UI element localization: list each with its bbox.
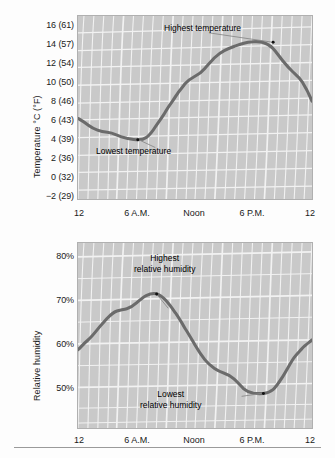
- x-tick-label: 6 A.M.: [124, 435, 150, 445]
- y-tick-label: 70%: [56, 295, 74, 305]
- y-tick-label: −2 (29): [46, 191, 74, 201]
- y-tick-label: 50%: [56, 383, 74, 393]
- x-tick-label: 6 P.M.: [240, 208, 265, 218]
- temperature-plot-area: [77, 15, 313, 200]
- lowest-temperature-marker: [136, 138, 139, 141]
- y-tick-label: 8 (46): [51, 96, 74, 106]
- highest-temperature-marker: [272, 41, 275, 44]
- temperature-curve: [78, 42, 312, 140]
- weather-chart-figure: Temperature °C (°F) −2 (29) 0 (32) 2 (36…: [0, 0, 335, 458]
- temperature-chart-panel: Temperature °C (°F) −2 (29) 0 (32) 2 (36…: [0, 0, 335, 229]
- y-tick-label: 2 (36): [51, 153, 74, 163]
- humidity-chart-panel: Relative humidity 50% 60% 70% 80%: [0, 229, 335, 458]
- temperature-y-tick-labels: −2 (29) 0 (32) 2 (36) 4 (39) 6 (43) 8 (4…: [36, 0, 74, 229]
- x-tick-label: 6 P.M.: [240, 435, 265, 445]
- figure-bottom-rule: [14, 447, 321, 448]
- y-tick-label: 14 (57): [46, 39, 74, 49]
- lowest-relative-humidity-annotation: Lowestrelative humidity: [140, 389, 201, 410]
- x-tick-label: Noon: [183, 435, 205, 445]
- y-tick-label: 16 (61): [46, 20, 74, 30]
- y-tick-label: 0 (32): [51, 172, 74, 182]
- temperature-gridlines: [78, 16, 312, 199]
- highest-temperature-leader-line: [209, 33, 272, 42]
- x-tick-label: 12: [305, 208, 315, 218]
- highest-temperature-annotation: Highest temperature: [164, 23, 241, 34]
- y-tick-label: 12 (54): [46, 58, 74, 68]
- highest-relative-humidity-marker: [155, 292, 158, 295]
- highest-relative-humidity-annotation: Highestrelative humidity: [134, 253, 195, 274]
- x-tick-label: 12: [74, 208, 84, 218]
- x-tick-label: 12: [74, 435, 84, 445]
- lowest-temperature-annotation: Lowest temperature: [96, 146, 171, 157]
- y-tick-label: 10 (50): [46, 77, 74, 87]
- y-tick-label: 60%: [56, 339, 74, 349]
- y-tick-label: 80%: [56, 251, 74, 261]
- x-tick-label: 6 A.M.: [124, 208, 150, 218]
- y-tick-label: 6 (43): [51, 115, 74, 125]
- y-tick-label: 4 (39): [51, 134, 74, 144]
- lowest-relative-humidity-marker: [262, 392, 265, 395]
- temperature-plot-svg: [78, 16, 312, 199]
- humidity-y-tick-labels: 50% 60% 70% 80%: [36, 229, 74, 458]
- x-tick-label: Noon: [183, 208, 205, 218]
- x-tick-label: 12: [305, 435, 315, 445]
